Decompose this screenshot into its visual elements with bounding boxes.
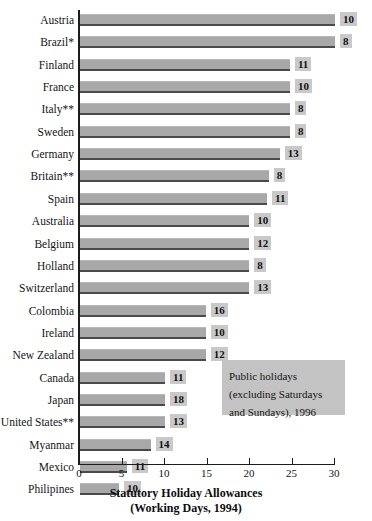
x-axis-tick <box>334 458 335 465</box>
bar-row: Colombia16 <box>0 304 372 326</box>
category-label: Sweden <box>0 125 74 139</box>
bar-row: Ireland10 <box>0 326 372 348</box>
bar-value-label: 8 <box>340 34 352 48</box>
bar-value-label: 8 <box>254 258 266 272</box>
category-label: Spain <box>0 192 74 206</box>
bar-value-label: 8 <box>274 168 286 182</box>
bar <box>80 126 290 136</box>
x-axis-tick-label: 0 <box>64 467 94 479</box>
bar-value-label: 11 <box>272 191 288 205</box>
bar-value-label: 11 <box>170 370 186 384</box>
bar <box>80 394 165 404</box>
bar-row: Italy**8 <box>0 102 372 124</box>
bar <box>80 327 206 337</box>
bar-shadow <box>80 248 249 250</box>
bar <box>80 439 151 449</box>
bar-row: Belgium12 <box>0 237 372 259</box>
bar <box>80 81 290 91</box>
bar-chart-plot-area: Austria10Brazil*8Finland11France10Italy*… <box>0 0 372 521</box>
axis-title-line-2: (Working Days, 1994) <box>0 501 372 516</box>
bar-row: Germany13 <box>0 147 372 169</box>
category-label: United States** <box>0 415 74 429</box>
bar-value-label: 14 <box>156 437 173 451</box>
bar <box>80 14 335 24</box>
bar-value-label: 10 <box>254 213 271 227</box>
bar <box>80 36 335 46</box>
x-axis-tick <box>292 458 293 465</box>
bar-shadow <box>80 404 165 406</box>
bar-shadow <box>80 292 249 294</box>
bar <box>80 193 267 203</box>
x-axis-tick-label: 20 <box>234 467 264 479</box>
bar-shadow <box>80 24 335 26</box>
bar-value-label: 13 <box>170 414 187 428</box>
bar <box>80 238 249 248</box>
bar-row: Holland8 <box>0 259 372 281</box>
x-axis-tick <box>249 458 250 465</box>
bar-shadow <box>80 180 269 182</box>
x-axis-tick-label: 5 <box>107 467 137 479</box>
category-label: Italy** <box>0 102 74 116</box>
bar-shadow <box>80 382 165 384</box>
bar-row: Britain**8 <box>0 169 372 191</box>
bar <box>80 59 290 69</box>
legend-line-2: (excluding Saturdays <box>229 388 322 400</box>
category-label: Japan <box>0 393 74 407</box>
category-label: Austria <box>0 13 74 27</box>
bar-value-label: 13 <box>285 146 302 160</box>
bar-shadow <box>80 426 165 428</box>
x-axis-tick-label: 30 <box>319 467 349 479</box>
bar-shadow <box>80 91 290 93</box>
x-axis-tick <box>79 458 80 465</box>
bar-row: Spain11 <box>0 192 372 214</box>
x-axis-tick <box>207 458 208 465</box>
category-label: Britain** <box>0 169 74 183</box>
bar-row: Austria10 <box>0 13 372 35</box>
category-label: Belgium <box>0 237 74 251</box>
bar-shadow <box>80 449 151 451</box>
bar-shadow <box>80 46 335 48</box>
category-label: New Zealand <box>0 348 74 362</box>
bar-shadow <box>80 315 206 317</box>
bar-row: Sweden8 <box>0 125 372 147</box>
bar-value-label: 18 <box>170 392 187 406</box>
axis-title-line-1: Statutory Holiday Allowances <box>0 486 372 501</box>
bar <box>80 148 280 158</box>
bar-shadow <box>80 113 290 115</box>
x-axis-tick <box>164 458 165 465</box>
category-label: Germany <box>0 147 74 161</box>
category-label: France <box>0 80 74 94</box>
bar-shadow <box>80 203 267 205</box>
legend-line-3: and Sundays), 1996 <box>229 406 316 418</box>
x-axis-tick-label: 25 <box>277 467 307 479</box>
bar-value-label: 13 <box>254 280 271 294</box>
category-label: Myanmar <box>0 438 74 452</box>
category-label: Australia <box>0 214 74 228</box>
bar-value-label: 11 <box>295 57 311 71</box>
bar-value-label: 10 <box>295 79 312 93</box>
bar-value-label: 12 <box>254 236 271 250</box>
bar <box>80 170 269 180</box>
legend-annotation-box: Public holidays (excluding Saturdays and… <box>222 360 345 415</box>
bar-row: United States**13 <box>0 415 372 437</box>
bar-shadow <box>80 158 280 160</box>
x-axis-tick <box>122 458 123 465</box>
bar-value-label: 16 <box>211 303 228 317</box>
bar-shadow <box>80 270 249 272</box>
bar-row: France10 <box>0 80 372 102</box>
bar-shadow <box>80 359 206 361</box>
axis-title: Statutory Holiday Allowances (Working Da… <box>0 486 372 516</box>
bar <box>80 282 249 292</box>
category-label: Colombia <box>0 304 74 318</box>
category-label: Brazil* <box>0 35 74 49</box>
chart-page: Austria10Brazil*8Finland11France10Italy*… <box>0 0 372 521</box>
bar-row: Switzerland13 <box>0 281 372 303</box>
bar-shadow <box>80 337 206 339</box>
bar <box>80 349 206 359</box>
bar-value-label: 10 <box>211 325 228 339</box>
bar-row: Australia10 <box>0 214 372 236</box>
bar <box>80 305 206 315</box>
category-label: Switzerland <box>0 281 74 295</box>
category-label: Holland <box>0 259 74 273</box>
bar-row: Brazil*8 <box>0 35 372 57</box>
